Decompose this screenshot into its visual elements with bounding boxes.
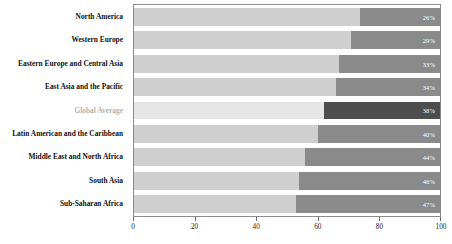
bar-value-label: 46% — [423, 177, 435, 184]
category-label: Sub-Saharan Africa — [0, 200, 128, 207]
x-axis-tick — [256, 217, 257, 221]
bar-segment-remainder — [134, 55, 339, 73]
x-axis-tick-label: 40 — [253, 223, 260, 231]
bar-segment-value: 34% — [336, 78, 440, 96]
bar-row: 33% — [134, 55, 440, 73]
bar-value-label: 40% — [423, 130, 435, 137]
bar-segment-remainder — [134, 125, 318, 143]
bar-row: 40% — [134, 125, 440, 143]
x-axis-tick — [133, 217, 134, 221]
x-axis-tick — [318, 217, 319, 221]
category-label: Western Europe — [0, 36, 128, 43]
category-label: Latin American and the Caribbean — [0, 130, 128, 137]
x-axis-tick-label: 20 — [191, 223, 198, 231]
x-axis-tick-label: 60 — [314, 223, 321, 231]
bar-segment-value: 29% — [351, 31, 440, 49]
x-axis-tick-label: 100 — [436, 223, 447, 231]
bar-segment-value: 47% — [296, 195, 440, 213]
category-label: Middle East and North Africa — [0, 153, 128, 160]
category-label: North America — [0, 13, 128, 20]
bar-row: 26% — [134, 8, 440, 26]
x-axis-tick — [195, 217, 196, 221]
bar-row: 34% — [134, 78, 440, 96]
bar-segment-value: 44% — [305, 148, 440, 166]
bar-value-label: 47% — [423, 201, 435, 208]
bar-row: 29% — [134, 31, 440, 49]
x-axis: 020406080100 — [133, 217, 441, 239]
bar-row: 38% — [134, 102, 440, 120]
bar-row: 46% — [134, 172, 440, 190]
bars-container: 26%29%33%34%38%40%44%46%47% — [134, 5, 440, 216]
bar-segment-value: 46% — [299, 172, 440, 190]
bar-value-label: 26% — [423, 13, 435, 20]
x-axis-tick-label: 0 — [131, 223, 135, 231]
bar-segment-remainder — [134, 78, 336, 96]
bar-segment-remainder — [134, 195, 296, 213]
x-axis-tick — [440, 217, 441, 221]
bar-segment-value: 38% — [324, 102, 440, 120]
category-label: East Asia and the Pacific — [0, 83, 128, 90]
bar-value-label: 33% — [423, 60, 435, 67]
bar-segment-remainder — [134, 172, 299, 190]
category-label: Global Average — [0, 107, 128, 114]
bar-segment-remainder — [134, 8, 360, 26]
bar-segment-remainder — [134, 148, 305, 166]
bar-chart: North AmericaWestern EuropeEastern Europ… — [0, 0, 452, 244]
bar-segment-value: 33% — [339, 55, 440, 73]
bar-row: 44% — [134, 148, 440, 166]
category-label: Eastern Europe and Central Asia — [0, 60, 128, 67]
bar-value-label: 34% — [423, 84, 435, 91]
category-label: South Asia — [0, 177, 128, 184]
bar-value-label: 44% — [423, 154, 435, 161]
x-axis-tick-label: 80 — [376, 223, 383, 231]
bar-segment-remainder — [134, 31, 351, 49]
category-axis-labels: North AmericaWestern EuropeEastern Europ… — [0, 5, 128, 216]
bar-segment-value: 26% — [360, 8, 440, 26]
bar-segment-value: 40% — [318, 125, 440, 143]
bar-value-label: 29% — [423, 37, 435, 44]
bar-segment-remainder — [134, 102, 324, 120]
bar-row: 47% — [134, 195, 440, 213]
x-axis-tick — [379, 217, 380, 221]
bar-value-label: 38% — [423, 107, 435, 114]
